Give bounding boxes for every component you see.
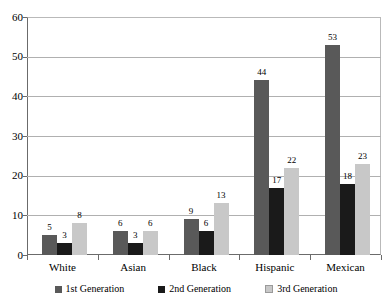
bar-group: 531823 [325,17,370,255]
bar-value-label: 22 [281,156,303,165]
bar[interactable] [128,243,143,255]
legend-item[interactable]: 2nd Generation [158,284,231,294]
y-axis-tick-label: 0 [1,250,23,261]
bar[interactable] [214,203,229,255]
legend-swatch-icon [55,286,62,293]
chart-legend: 1st Generation2nd Generation3rd Generati… [0,281,392,297]
x-axis-category-label: Mexican [306,261,386,274]
bar[interactable] [254,80,269,255]
legend-label: 2nd Generation [169,284,231,294]
x-axis-category-label: Asian [93,261,173,274]
y-axis-tick-label: 50 [1,51,23,62]
bars-layer: 5386369613441722531823 [27,17,381,255]
x-axis-category-label: Hispanic [235,261,315,274]
bar[interactable] [325,45,340,255]
legend-item[interactable]: 1st Generation [55,284,125,294]
legend-swatch-icon [265,285,273,293]
x-axis-tick-mark [310,255,311,260]
x-axis-tick-mark [169,255,170,260]
bar-group: 636 [113,17,158,255]
bar-value-label: 6 [139,219,161,228]
x-axis-tick-mark [381,255,382,260]
x-axis-tick-mark [98,255,99,260]
legend-swatch-icon [158,286,165,293]
bar[interactable] [72,223,87,255]
bar-group: 441722 [254,17,299,255]
x-axis-category-label: White [22,261,102,274]
y-axis-tick-label: 20 [1,170,23,181]
legend-label: 1st Generation [66,284,125,294]
bar-value-label: 13 [210,191,232,200]
bar[interactable] [355,164,370,255]
bar[interactable] [284,168,299,255]
x-axis-tick-mark [239,255,240,260]
bar[interactable] [199,231,214,255]
bar-value-label: 44 [251,68,273,77]
bar[interactable] [143,231,158,255]
bar-group: 538 [42,17,87,255]
bar-value-label: 53 [322,33,344,42]
x-axis-category-label: Black [164,261,244,274]
x-axis-tick-mark [27,255,28,260]
bar-value-label: 9 [180,207,202,216]
y-axis-tick-label: 60 [1,12,23,23]
bar[interactable] [57,243,72,255]
bar[interactable] [340,184,355,255]
bar[interactable] [269,188,284,255]
y-axis-tick-label: 30 [1,131,23,142]
y-axis-tick-label: 10 [1,210,23,221]
bar-value-label: 23 [352,152,374,161]
bar-group: 9613 [184,17,229,255]
bar-value-label: 8 [68,211,90,220]
bar-value-label: 6 [109,219,131,228]
y-axis-tick-label: 40 [1,91,23,102]
legend-label: 3rd Generation [277,284,337,294]
legend-item[interactable]: 3rd Generation [265,284,337,294]
bar-chart: 0102030405060 5386369613441722531823 Whi… [0,0,392,303]
